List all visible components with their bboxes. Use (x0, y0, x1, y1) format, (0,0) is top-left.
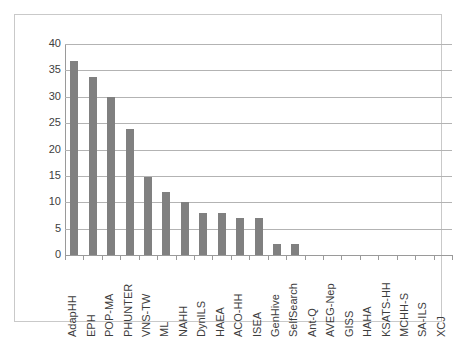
bar-EPH (89, 77, 97, 255)
plot-area (65, 44, 452, 255)
gridline-15 (65, 176, 452, 177)
x-tick-label-GenHive: GenHive (270, 294, 281, 337)
x-tick-13 (305, 255, 306, 260)
x-tick-17 (378, 255, 379, 260)
bar-ACO-HH (236, 218, 244, 255)
x-tick-label-ISEA: ISEA (252, 312, 263, 337)
bar-AdapHH (70, 61, 78, 255)
x-tick-label-Ant-Q: Ant-Q (307, 308, 318, 337)
x-tick-18 (397, 255, 398, 260)
bar-chart: 0510152025303540 AdapHHEPHPOP-MAPHUNTERV… (0, 0, 456, 337)
x-tick-label-GISS: GISS (344, 311, 355, 337)
x-tick-9 (231, 255, 232, 260)
x-tick-label-NAHH: NAHH (178, 306, 189, 337)
bar-DynILS (199, 213, 207, 255)
x-tick-5 (157, 255, 158, 260)
gridline-30 (65, 97, 452, 98)
x-tick-label-KSATS-HH: KSATS-HH (381, 282, 392, 337)
bar-GenHive (273, 244, 281, 255)
y-tick-label-15: 15 (25, 170, 61, 181)
x-tick-label-HAEA: HAEA (215, 307, 226, 337)
x-tick-12 (286, 255, 287, 260)
x-tick-label-VNS-TW: VNS-TW (141, 294, 152, 337)
gridline-20 (65, 150, 452, 151)
gridline-35 (65, 70, 452, 71)
x-tick-3 (120, 255, 121, 260)
bar-HAEA (218, 213, 226, 255)
bar-NAHH (181, 202, 189, 255)
x-tick-16 (360, 255, 361, 260)
y-tick-label-30: 30 (25, 91, 61, 102)
y-tick-label-40: 40 (25, 38, 61, 49)
x-tick-7 (194, 255, 195, 260)
y-tick-label-20: 20 (25, 144, 61, 155)
x-tick-19 (415, 255, 416, 260)
bar-ML (162, 192, 170, 255)
y-axis-tick-labels: 0510152025303540 (23, 44, 61, 255)
x-tick-2 (102, 255, 103, 260)
x-tick-label-SA-ILS: SA-ILS (417, 302, 428, 337)
x-tick-label-PHUNTER: PHUNTER (123, 284, 134, 337)
x-tick-label-AdapHH: AdapHH (67, 295, 78, 337)
x-tick-label-ML: ML (159, 322, 170, 337)
x-tick-label-POP-MA: POP-MA (104, 294, 115, 337)
y-tick-label-35: 35 (25, 64, 61, 75)
y-tick-label-25: 25 (25, 117, 61, 128)
x-tick-1 (83, 255, 84, 260)
x-tick-14 (323, 255, 324, 260)
x-tick-4 (139, 255, 140, 260)
x-tick-10 (249, 255, 250, 260)
x-tick-15 (341, 255, 342, 260)
x-tick-label-ACO-HH: ACO-HH (233, 294, 244, 337)
x-tick-6 (176, 255, 177, 260)
bar-VNS-TW (144, 177, 152, 255)
x-axis-tick-labels: AdapHHEPHPOP-MAPHUNTERVNS-TWMLNAHHDynILS… (65, 261, 452, 337)
x-tick-label-MCHH-S: MCHH-S (399, 293, 410, 337)
x-tick-label-XCJ: XCJ (436, 316, 447, 337)
y-tick-label-10: 10 (25, 196, 61, 207)
gridline-25 (65, 123, 452, 124)
y-tick-label-0: 0 (25, 249, 61, 260)
gridline-10 (65, 202, 452, 203)
bar-ISEA (255, 218, 263, 255)
x-tick-label-SelfSearch: SelfSearch (288, 283, 299, 337)
x-tick-label-DynILS: DynILS (196, 301, 207, 337)
bar-PHUNTER (126, 129, 134, 255)
x-tick-21 (452, 255, 453, 260)
x-tick-0 (65, 255, 66, 260)
x-tick-label-AVEG-Nep: AVEG-Nep (325, 283, 336, 337)
chart-frame: 0510152025303540 AdapHHEPHPOP-MAPHUNTERV… (14, 14, 442, 322)
x-tick-8 (212, 255, 213, 260)
x-tick-label-EPH: EPH (86, 314, 97, 337)
bar-SelfSearch (291, 244, 299, 255)
x-tick-label-HAHA: HAHA (362, 306, 373, 337)
y-tick-label-5: 5 (25, 223, 61, 234)
x-tick-20 (434, 255, 435, 260)
bar-POP-MA (107, 97, 115, 255)
gridline-40 (65, 44, 452, 45)
x-tick-11 (268, 255, 269, 260)
